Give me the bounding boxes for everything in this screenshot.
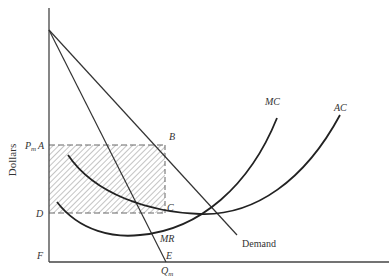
label-e: E [165,250,172,261]
quantity-label: Qm [161,265,173,278]
mr-label: MR [159,233,174,244]
ac-label: AC [333,102,347,113]
y-axis-label: Dollars [6,144,18,176]
label-c: C [167,202,174,213]
label-b: B [169,131,175,142]
monopoly-diagram: Dollars Pm A D F B C E Qm MC AC MR Deman… [0,0,389,280]
label-f: F [36,250,44,261]
label-d: D [35,208,44,219]
profit-area [49,145,165,213]
label-a: A [37,140,45,151]
mc-label: MC [264,96,280,107]
demand-label: Demand [242,238,276,249]
price-label: Pm [24,140,36,153]
